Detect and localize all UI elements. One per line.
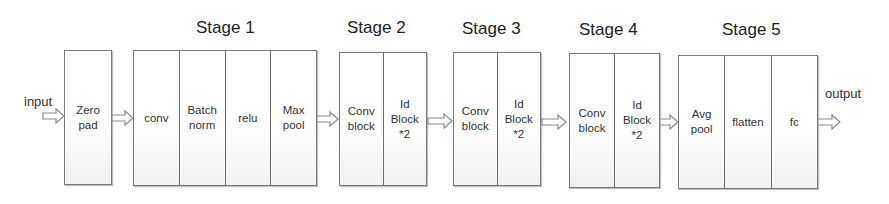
stage-2-block: Conv block Id Block *2 — [339, 52, 427, 186]
flatten-cell: flatten — [724, 56, 770, 188]
stage-3-block: Conv block Id Block *2 — [453, 52, 541, 186]
id-block-cell: Id Block *2 — [614, 54, 659, 187]
input-label: input — [24, 94, 52, 109]
stage-4-title: Stage 4 — [579, 20, 638, 40]
conv-block-cell: Conv block — [454, 53, 497, 185]
relu-cell: relu — [225, 51, 271, 185]
output-label: output — [825, 86, 861, 101]
id-block-cell: Id Block *2 — [383, 53, 427, 185]
stage-2-title: Stage 2 — [347, 18, 406, 38]
zero-pad-cell: Zero pad — [65, 51, 111, 184]
arrow-icon — [316, 111, 340, 127]
id-block-cell: Id Block *2 — [497, 53, 541, 185]
batch-norm-cell: Batch norm — [179, 51, 225, 185]
stage-3-title: Stage 3 — [462, 19, 521, 39]
arrow-icon — [541, 114, 569, 130]
conv-block-cell: Conv block — [340, 53, 383, 185]
stage-1-title: Stage 1 — [196, 18, 255, 38]
conv-cell: conv — [134, 51, 179, 185]
zero-pad-block: Zero pad — [64, 50, 112, 185]
stage-5-block: Avg pool flatten fc — [678, 55, 818, 189]
arrow-icon — [427, 113, 455, 129]
fc-cell: fc — [771, 56, 817, 188]
arrow-icon — [111, 110, 135, 126]
conv-block-cell: Conv block — [570, 54, 614, 187]
stage-1-block: conv Batch norm relu Max pool — [133, 50, 317, 186]
stage-4-block: Conv block Id Block *2 — [569, 53, 660, 188]
input-arrow-icon — [42, 108, 66, 124]
output-arrow-icon — [817, 114, 843, 130]
stage-5-title: Stage 5 — [722, 20, 781, 40]
avg-pool-cell: Avg pool — [679, 56, 724, 188]
arrow-icon — [659, 114, 681, 130]
max-pool-cell: Max pool — [270, 51, 316, 185]
